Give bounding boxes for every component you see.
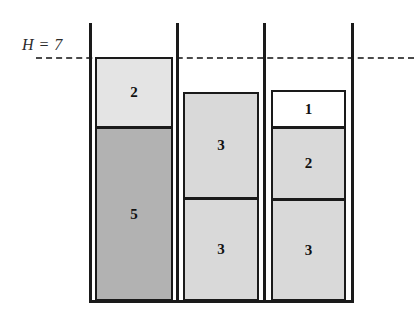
block-size-label: 2	[130, 84, 138, 101]
bin-packing-figure: H = 7 2 5 3 3 1 2 3	[0, 0, 418, 324]
bin-2-block-bottom: 3	[183, 198, 259, 301]
bin-3-block-middle: 2	[271, 127, 346, 200]
bin-1-block-top: 2	[95, 57, 173, 128]
block-size-label: 1	[305, 101, 313, 118]
capacity-dashed-line	[36, 57, 414, 59]
block-size-label: 3	[217, 137, 225, 154]
block-size-label: 3	[217, 241, 225, 258]
block-size-label: 5	[130, 206, 138, 223]
block-size-label: 3	[305, 242, 313, 259]
bin-2-block-top: 3	[183, 92, 259, 199]
capacity-label: H = 7	[22, 36, 63, 54]
bin-wall-2	[263, 23, 266, 303]
bin-3-block-top: 1	[271, 90, 346, 128]
bin-wall-left	[89, 23, 92, 303]
bin-3-block-bottom: 3	[271, 199, 346, 301]
bin-1-block-bottom: 5	[95, 127, 173, 301]
bin-wall-1	[176, 23, 179, 303]
bin-wall-right	[351, 23, 354, 303]
block-size-label: 2	[305, 155, 313, 172]
